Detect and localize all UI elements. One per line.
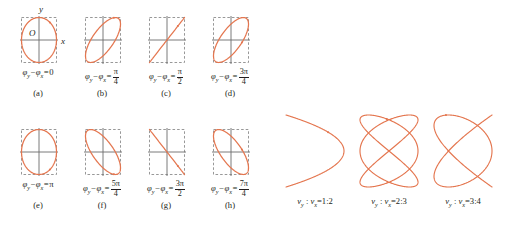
phase-plot-h [210, 126, 252, 178]
fraction-denominator: 4 [111, 190, 121, 199]
lissajous-ratio-group: νy : νx=1:2 νy : νx=2:3 νy : νx=3:4 [276, 112, 502, 230]
phase-equation-lhs: φy−φx= [23, 67, 50, 77]
lissajous-figure: yxO φy−φx=0 (a) φy−φx=π4 (b) φy−φx=π2 (c… [0, 0, 505, 239]
phase-value: π [49, 179, 53, 189]
phase-plot-g [146, 126, 188, 178]
equals-symbol: = [232, 183, 238, 193]
fraction-denominator: 4 [239, 190, 249, 199]
phase-plot-c [146, 14, 188, 66]
top-truncated-text [4, 0, 234, 10]
lissajous-curve-2-3 [357, 112, 421, 190]
phase-equation-lhs: φy−φx= [83, 183, 110, 193]
phase-panel-g: φy−φx=3π2 (g) [134, 124, 198, 236]
phase-value-fraction: 7π4 [239, 180, 249, 198]
phase-tag-b: (b) [70, 88, 134, 98]
lissajous-label-1-2: νy : νx=1:2 [274, 196, 356, 208]
phase-equation-lhs: φy−φx= [23, 179, 50, 189]
fraction-denominator: 2 [175, 190, 185, 199]
phase-equation-lhs: φy−φx= [85, 71, 112, 81]
lissajous-figure-1-2: νy : νx=1:2 [280, 112, 350, 230]
phase-value-fraction: 3π2 [175, 180, 185, 198]
lissajous-label-2-3: νy : νx=2:3 [348, 196, 430, 208]
phase-plot-f [82, 126, 124, 178]
phase-panel-f: φy−φx=5π4 (f) [70, 124, 134, 236]
equals-symbol: = [232, 71, 238, 81]
phase-equation-lhs: φy−φx= [149, 71, 176, 81]
phase-equation-f: φy−φx=5π4 [70, 180, 134, 198]
phase-value-fraction: π2 [177, 68, 183, 86]
phase-panel-c: φy−φx=π2 (c) [134, 12, 198, 124]
equals-symbol: = [168, 183, 174, 193]
phase-equation-h: φy−φx=7π4 [198, 180, 262, 198]
phase-tag-d: (d) [198, 88, 262, 98]
phase-panel-grid: yxO φy−φx=0 (a) φy−φx=π4 (b) φy−φx=π2 (c… [6, 12, 262, 236]
phase-equation-c: φy−φx=π2 [134, 68, 198, 86]
phase-panel-b: φy−φx=π4 (b) [70, 12, 134, 124]
phase-equation-lhs: φy−φx= [211, 183, 238, 193]
phase-value-fraction: π4 [113, 68, 119, 86]
fraction-denominator: 4 [239, 78, 249, 87]
phase-tag-e: (e) [6, 200, 70, 210]
phase-equation-d: φy−φx=3π4 [198, 68, 262, 86]
lissajous-label-3-4: νy : νx=3:4 [422, 196, 504, 208]
phase-value-fraction: 3π4 [239, 68, 249, 86]
phase-equation-e: φy−φx=π [6, 180, 70, 191]
ratio-value: 1:2 [322, 196, 333, 206]
equals-symbol: = [170, 71, 176, 81]
phase-plot-b [82, 14, 124, 66]
equals-symbol: = [104, 183, 110, 193]
ratio-value: 2:3 [396, 196, 407, 206]
phase-equation-lhs: φy−φx= [147, 183, 174, 193]
lissajous-curve-3-4 [431, 112, 495, 190]
ratio-value: 3:4 [470, 196, 481, 206]
phase-panel-h: φy−φx=7π4 (h) [198, 124, 262, 236]
fraction-denominator: 2 [177, 78, 183, 87]
lissajous-figure-3-4: νy : νx=3:4 [428, 112, 498, 230]
phase-tag-f: (f) [70, 200, 134, 210]
phase-tag-g: (g) [134, 200, 198, 210]
phase-panel-d: φy−φx=3π4 (d) [198, 12, 262, 124]
phase-tag-h: (h) [198, 200, 262, 210]
phase-equation-lhs: φy−φx= [211, 71, 238, 81]
phase-plot-e [18, 126, 60, 178]
phase-value-fraction: 5π4 [111, 180, 121, 198]
phase-panel-row-bottom: φy−φx=π (e) φy−φx=5π4 (f) φy−φx=3π2 (g) … [6, 124, 262, 236]
phase-plot-a: yxO [18, 14, 60, 66]
phase-panel-a: yxO φy−φx=0 (a) [6, 12, 70, 124]
phase-value: 0 [49, 67, 53, 77]
lissajous-figure-2-3: νy : νx=2:3 [354, 112, 424, 230]
phase-panel-row-top: yxO φy−φx=0 (a) φy−φx=π4 (b) φy−φx=π2 (c… [6, 12, 262, 124]
phase-tag-c: (c) [134, 88, 198, 98]
equals-symbol: = [106, 71, 112, 81]
lissajous-curve-1-2 [283, 112, 347, 190]
phase-tag-a: (a) [6, 88, 70, 98]
phase-plot-d [210, 14, 252, 66]
fraction-denominator: 4 [113, 78, 119, 87]
phase-equation-a: φy−φx=0 [6, 68, 70, 79]
phase-panel-e: φy−φx=π (e) [6, 124, 70, 236]
phase-equation-b: φy−φx=π4 [70, 68, 134, 86]
phase-equation-g: φy−φx=3π2 [134, 180, 198, 198]
axis-label-x: x [61, 36, 65, 46]
